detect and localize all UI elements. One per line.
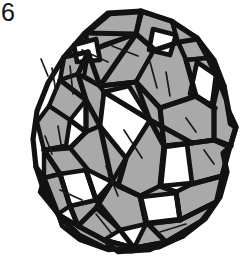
caption-fragment bbox=[0, 263, 247, 277]
crease-1 bbox=[41, 59, 48, 76]
woven-polyhedron-illustration: Woven polyhedral ball assembled from int… bbox=[0, 0, 247, 277]
figure-container: 6 Woven polyhedral ball assembled from i… bbox=[0, 0, 247, 277]
